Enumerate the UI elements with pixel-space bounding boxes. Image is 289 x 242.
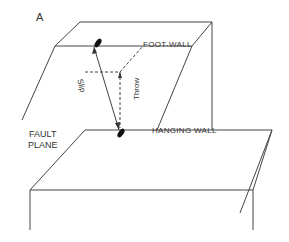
fault-block-diagram — [0, 0, 289, 242]
slip-arrowhead-bottom — [115, 122, 120, 130]
hangingwall-back-trace — [240, 130, 272, 213]
slip-arrowhead-top — [92, 47, 97, 54]
hangingwall-marker — [116, 127, 126, 138]
heave-line — [120, 46, 143, 72]
hangingwall-top — [30, 130, 272, 190]
fault-plane-label-line2: PLANE — [28, 140, 58, 151]
footwall-marker — [93, 37, 103, 48]
hanging-wall-label: HANGING WALL — [152, 126, 217, 135]
fault-plane-trace — [157, 46, 192, 130]
foot-wall-label: FOOT-WALL — [143, 40, 192, 49]
slip-arrow — [94, 47, 119, 130]
fault-plane-label-line1: FAULT — [28, 129, 58, 140]
throw-label: Throw — [132, 78, 141, 100]
fault-plane-label: FAULT PLANE — [28, 129, 58, 151]
panel-label: A — [36, 11, 43, 23]
throw-arrowhead — [118, 72, 122, 78]
footwall-left-edge — [22, 46, 55, 120]
